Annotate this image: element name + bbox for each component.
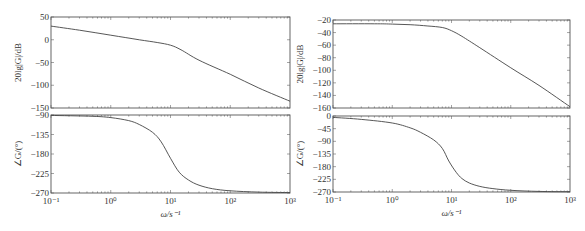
y-tick-label: −180 xyxy=(312,162,331,172)
y-tick-label: −40 xyxy=(317,28,332,38)
x-tick-label: 10⁻¹ xyxy=(325,195,342,205)
left-phase-panel: −90−135−180−225−270∠G/(°)10⁻¹10⁰10¹10²10… xyxy=(13,110,296,219)
y-axis-label: ∠G/(°) xyxy=(13,141,23,168)
y-tick-label: −50 xyxy=(35,58,50,68)
y-tick-label: −20 xyxy=(317,15,332,25)
phase-curve xyxy=(51,115,290,192)
x-tick-label: 10² xyxy=(224,196,236,206)
right-magnitude-panel: −20−40−60−80−100−120−140−16020lg|G|/dB xyxy=(295,15,570,113)
x-tick-label: 10¹ xyxy=(446,195,458,205)
magnitude-curve xyxy=(51,26,290,101)
left-magnitude-panel: 500−50−100−15020lg|G|/dB xyxy=(13,12,290,113)
y-tick-label: −225 xyxy=(30,169,49,179)
magnitude-curve xyxy=(333,24,570,107)
x-tick-label: 10² xyxy=(505,195,517,205)
plot-frame xyxy=(51,115,290,193)
y-tick-label: −80 xyxy=(317,53,332,63)
x-axis-label: ω/s⁻¹ xyxy=(160,209,180,219)
x-tick-label: 10⁰ xyxy=(386,195,399,205)
x-axis-label: ω/s⁻¹ xyxy=(441,208,461,218)
y-tick-label: −60 xyxy=(317,40,332,50)
y-tick-label: −135 xyxy=(312,149,331,159)
x-tick-label: 10³ xyxy=(284,196,296,206)
y-tick-label: −90 xyxy=(35,110,50,120)
x-tick-label: 10¹ xyxy=(165,196,177,206)
y-tick-label: −90 xyxy=(317,136,332,146)
y-tick-label: −120 xyxy=(312,78,331,88)
y-axis-label: 20lg|G|/dB xyxy=(295,44,305,83)
phase-curve xyxy=(333,117,570,191)
y-axis-label: ∠G/(°) xyxy=(295,141,305,168)
y-tick-label: −135 xyxy=(30,130,49,140)
y-tick-label: −100 xyxy=(312,65,331,75)
y-tick-label: −45 xyxy=(317,124,332,134)
bode-figure: 500−50−100−15020lg|G|/dB−90−135−180−225−… xyxy=(0,0,585,231)
right-phase-panel: 0−45−90−135−180−225−270∠G/(°)10⁻¹10⁰10¹1… xyxy=(295,111,576,218)
x-tick-label: 10³ xyxy=(564,195,576,205)
y-tick-label: −140 xyxy=(312,90,331,100)
plot-frame xyxy=(333,20,570,108)
y-tick-label: 50 xyxy=(40,12,50,22)
y-tick-label: −100 xyxy=(30,80,49,90)
x-tick-label: 10⁰ xyxy=(104,196,117,206)
x-tick-label: 10⁻¹ xyxy=(43,196,60,206)
y-tick-label: 0 xyxy=(327,111,332,121)
y-axis-label: 20lg|G|/dB xyxy=(13,43,23,82)
plot-frame xyxy=(51,17,290,108)
y-tick-label: −225 xyxy=(312,174,331,184)
y-tick-label: −180 xyxy=(30,149,49,159)
plot-frame xyxy=(333,116,570,192)
y-tick-label: 0 xyxy=(45,35,50,45)
